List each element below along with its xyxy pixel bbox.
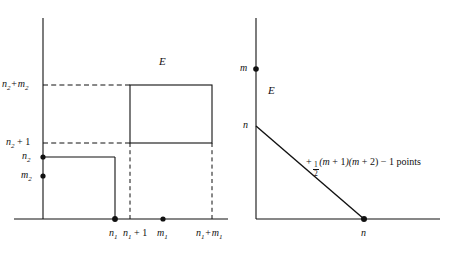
point-n2: [40, 154, 45, 159]
axis-label-n2-plus-1: n2 + 1: [6, 137, 30, 150]
axis-label-n-y: n: [243, 120, 248, 130]
point-m2: [40, 173, 45, 178]
point-m1: [160, 216, 165, 221]
point-n1: [112, 216, 118, 222]
region-label-E-right: E: [268, 85, 275, 96]
point-m: [253, 66, 259, 72]
axis-label-n1: n1: [109, 228, 118, 241]
left-panel-points: [40, 154, 165, 222]
axis-label-m2: m2: [21, 170, 32, 183]
figure-container: n2 + m2 n2 + 1 n2 m2 E n1 n1 + 1 m1 n1 +…: [0, 0, 453, 257]
axis-label-n1-plus-m1: n1 + m1: [196, 228, 223, 241]
axis-label-n1-plus-1: n1 + 1: [123, 228, 147, 241]
region-label-E-left: E: [159, 56, 166, 67]
point-n-x: [361, 216, 367, 222]
left-dashed-guides: [43, 85, 212, 219]
right-panel-axes: [256, 18, 440, 219]
axis-label-n2: n2: [22, 151, 31, 164]
left-panel-axes: [14, 18, 228, 219]
axis-label-m: m: [240, 63, 247, 73]
lower-left-rectangle: [43, 157, 115, 219]
axis-label-n-x: n: [361, 228, 366, 238]
upper-right-rectangle: [130, 85, 212, 143]
diagram-svg: [0, 0, 453, 257]
annotation-points-formula: + 12(m + 1)(m + 2) − 1 points: [306, 157, 421, 178]
axis-label-m1: m1: [157, 228, 168, 241]
axis-label-n2-plus-m2: n2 + m2: [2, 79, 29, 92]
